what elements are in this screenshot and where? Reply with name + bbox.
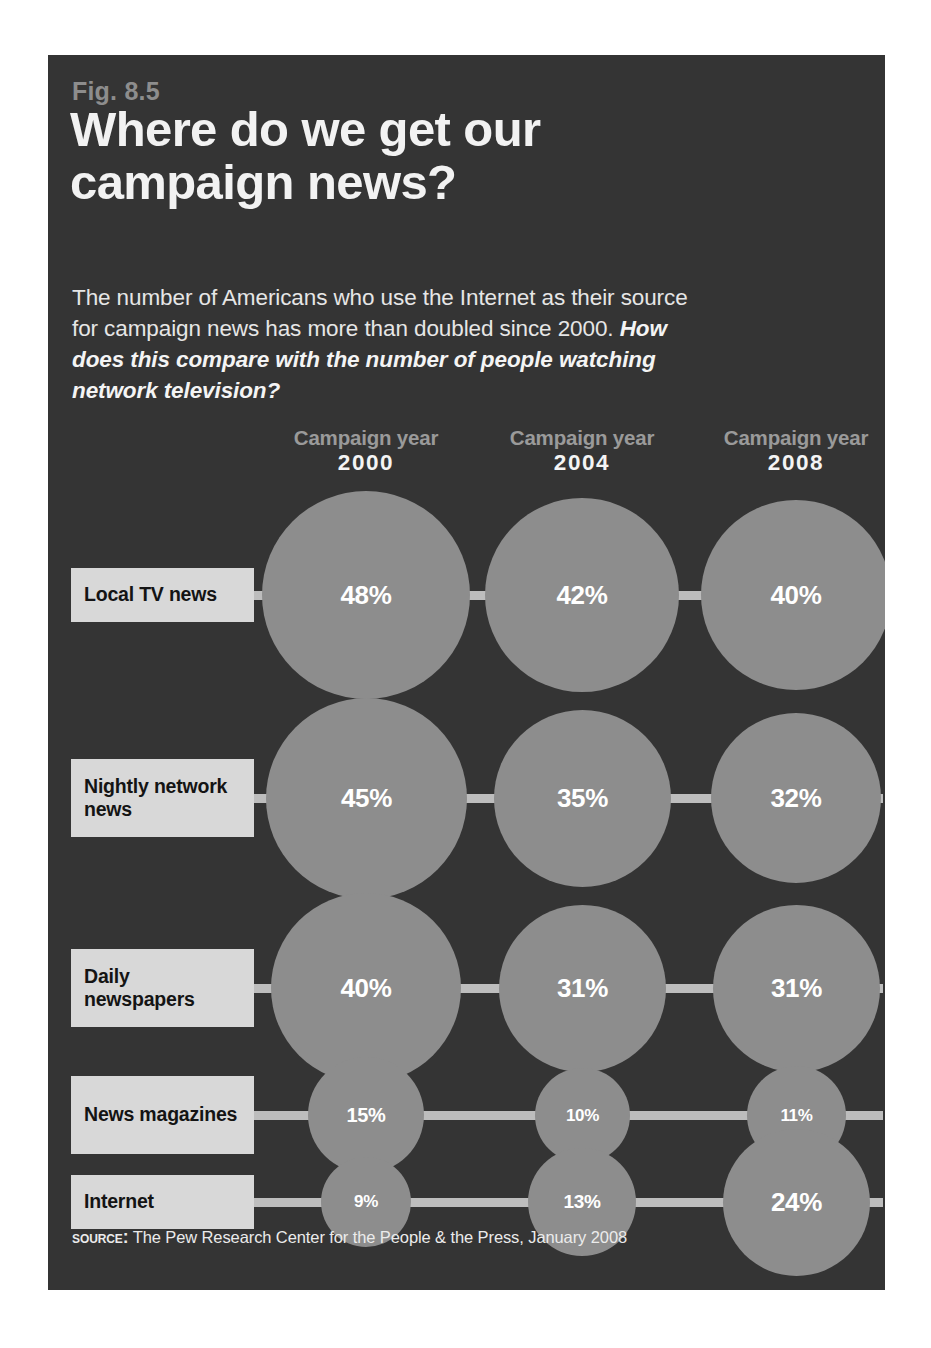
bubble-2008-local-tv-news: 40% [701, 500, 885, 690]
row-label-nightly-network-news: Nightly network news [71, 759, 254, 837]
row-label-daily-newspapers: Daily newspapers [71, 949, 254, 1027]
bubble-value-label: 15% [346, 1104, 385, 1127]
bubble-2000-local-tv-news: 48% [262, 491, 470, 699]
bubble-2000-news-magazines: 15% [308, 1057, 424, 1173]
bubble-value-label: 10% [566, 1106, 599, 1126]
bubble-value-label: 48% [340, 580, 391, 611]
bubble-value-label: 42% [556, 580, 607, 611]
bubble-2004-nightly-network-news: 35% [494, 710, 671, 887]
bubble-value-label: 24% [771, 1187, 822, 1218]
bubble-2000-nightly-network-news: 45% [266, 698, 467, 899]
bubble-value-label: 35% [557, 783, 608, 814]
source-text: The Pew Research Center for the People &… [133, 1228, 627, 1246]
bubble-value-label: 40% [340, 973, 391, 1004]
figure-panel: Fig. 8.5 Where do we get our campaign ne… [48, 55, 885, 1290]
row-label-internet: Internet [71, 1175, 254, 1229]
bubble-2004-local-tv-news: 42% [485, 498, 679, 692]
bubble-2008-internet: 24% [723, 1129, 870, 1276]
bubble-value-label: 11% [780, 1106, 812, 1126]
row-label-local-tv-news: Local TV news [71, 568, 254, 622]
bubble-2000-daily-newspapers: 40% [271, 893, 461, 1083]
bubble-value-label: 9% [354, 1192, 378, 1212]
source-note: Source: The Pew Research Center for the … [72, 1227, 627, 1248]
bubble-value-label: 32% [770, 783, 821, 814]
bubble-2008-nightly-network-news: 32% [711, 713, 881, 883]
source-kicker: Source: [72, 1227, 128, 1247]
bubble-value-label: 31% [557, 973, 608, 1004]
bubble-value-label: 40% [770, 580, 821, 611]
bubble-value-label: 45% [341, 783, 392, 814]
bubble-plot-area: Local TV news48%42%40%Nightly network ne… [48, 55, 885, 1290]
bubble-2008-daily-newspapers: 31% [713, 905, 880, 1072]
bubble-value-label: 31% [771, 973, 822, 1004]
bubble-value-label: 13% [563, 1191, 600, 1213]
bubble-2004-daily-newspapers: 31% [499, 905, 666, 1072]
row-label-news-magazines: News magazines [71, 1076, 254, 1154]
